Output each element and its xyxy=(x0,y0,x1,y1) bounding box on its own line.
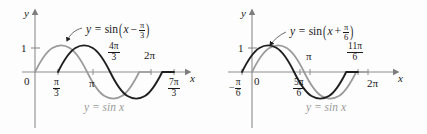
equation-leader-arrow-right xyxy=(270,32,286,45)
y-tick-label-1-left: 1 xyxy=(21,43,27,54)
x-tick-label-11pi-over-6-right: 11π 6 xyxy=(347,42,363,62)
frac-denominator: 6 xyxy=(235,89,242,99)
equation-function-name: sin xyxy=(105,23,118,35)
x-tick-label-2pi-left: 2π xyxy=(144,50,155,61)
y-axis-label-left: y xyxy=(24,8,29,19)
equation-leader-arrow-left xyxy=(67,28,82,41)
equation-lhs: y = xyxy=(290,25,309,37)
equation-label-left: y = sin(x− π 3 ) xyxy=(86,21,151,39)
close-paren-icon: ) xyxy=(146,22,149,38)
equation-lhs: y = xyxy=(86,23,105,35)
frac-denominator: 3 xyxy=(139,31,145,40)
y-tick-label-1-right: 1 xyxy=(238,43,244,54)
equation-function-name: sin xyxy=(309,25,322,37)
x-axis-label-right: x xyxy=(398,73,403,84)
reference-curve-label-right: y = sin x xyxy=(306,102,346,114)
y-axis-label-right: y xyxy=(241,8,246,19)
x-tick-label-pi-left: π xyxy=(89,78,95,89)
graph-panel-right: y x 1 0 − π 6 5π 6 π 11π 6 xyxy=(214,0,427,134)
frac-denominator: 3 xyxy=(168,89,180,99)
x-tick-label-2pi-right: 2π xyxy=(367,78,378,89)
reference-curve-label-left: y = sin x xyxy=(84,102,124,114)
origin-label-left: 0 xyxy=(24,76,30,87)
equation-operator: + xyxy=(332,26,343,38)
x-tick-label-4pi-over-3-left: 4π 3 xyxy=(108,42,120,62)
sine-phase-shift-figure: y x 1 0 π 3 π 4π 3 2π 7π 3 xyxy=(0,0,427,134)
frac-denominator: 3 xyxy=(53,89,60,99)
open-paren-icon: ( xyxy=(119,22,122,38)
equation-fraction: π 3 xyxy=(139,21,145,39)
x-tick-label-pi-right: π xyxy=(306,51,312,62)
x-axis-label-left: x xyxy=(190,73,195,84)
equation-operator: − xyxy=(128,24,139,36)
close-paren-icon: ) xyxy=(350,24,353,40)
frac-denominator: 3 xyxy=(108,53,120,63)
graph-panel-left: y x 1 0 π 3 π 4π 3 2π 7π 3 xyxy=(0,0,213,134)
frac-denominator: 6 xyxy=(293,89,305,99)
x-tick-label-pi-over-3-left: π 3 xyxy=(53,78,60,98)
frac-denominator: 6 xyxy=(343,33,349,42)
x-tick-label-5pi-over-6-right: 5π 6 xyxy=(293,78,305,98)
equation-label-right: y = sin(x+ π 6 ) xyxy=(290,23,355,41)
x-tick-label-neg-pi-over-6-right: − π 6 xyxy=(229,78,241,98)
graph-right-svg xyxy=(214,0,427,134)
x-tick-label-7pi-over-3-left: 7π 3 xyxy=(168,78,180,98)
frac-denominator: 6 xyxy=(347,53,363,63)
origin-label-right: 0 xyxy=(254,76,260,87)
equation-fraction: π 6 xyxy=(343,23,349,41)
open-paren-icon: ( xyxy=(323,24,326,40)
